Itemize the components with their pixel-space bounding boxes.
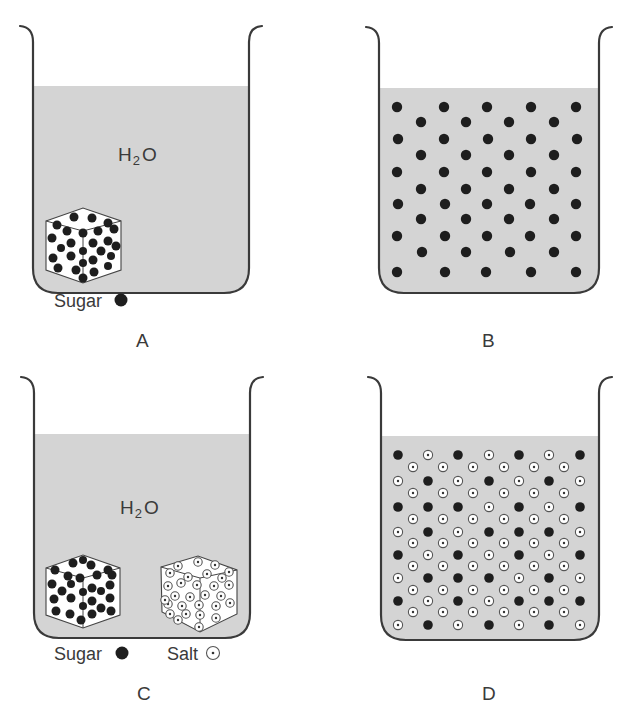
solution-liquid: [380, 88, 598, 293]
sugar-symbol-icon: [115, 294, 128, 307]
sugar-cube: [46, 208, 121, 283]
panel-label-c: C: [137, 683, 151, 704]
dissolution-diagram: H2O Sugar A B: [0, 0, 625, 711]
svg-text:Sugar: Sugar: [54, 644, 102, 664]
panel-a: H2O Sugar A: [20, 26, 262, 351]
legend-sugar: Sugar: [54, 644, 129, 664]
panel-b: B: [366, 27, 612, 351]
panel-d: D: [368, 377, 612, 704]
panel-label-a: A: [136, 330, 149, 351]
panel-c: H2O Sugar: [21, 377, 263, 704]
sugar-symbol-icon: [116, 647, 129, 660]
panel-label-d: D: [482, 683, 496, 704]
sugar-cube: [46, 555, 120, 628]
svg-text:Salt: Salt: [167, 644, 198, 664]
legend-salt: Salt: [167, 644, 220, 664]
panel-label-b: B: [482, 330, 495, 351]
svg-text:Sugar: Sugar: [54, 291, 102, 311]
